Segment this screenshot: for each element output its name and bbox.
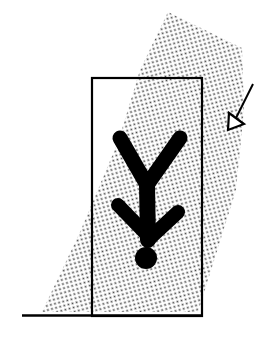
person-head-icon xyxy=(135,247,157,269)
pictogram-canvas xyxy=(0,0,274,338)
